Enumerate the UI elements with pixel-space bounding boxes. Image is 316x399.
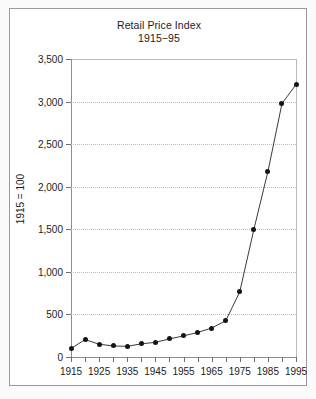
x-tick-mark	[198, 357, 199, 362]
x-tick-mark	[71, 357, 72, 362]
x-tick-mark	[85, 357, 86, 362]
y-tick-label: 3,000	[38, 96, 63, 107]
plot-area: 05001,0001,5002,0002,5003,0003,500 19151…	[71, 59, 296, 357]
data-point	[125, 344, 130, 349]
x-tick-mark	[184, 357, 185, 362]
x-tick-mark	[282, 357, 283, 362]
x-tick-mark	[169, 357, 170, 362]
x-tick-label: 1955	[172, 366, 194, 377]
x-tick-mark	[113, 357, 114, 362]
x-tick-mark	[99, 357, 100, 362]
x-tick-mark	[254, 357, 255, 362]
x-tick-label: 1925	[88, 366, 110, 377]
data-point	[69, 346, 74, 351]
x-tick-mark	[127, 357, 128, 362]
series-line	[71, 59, 296, 357]
x-tick-mark	[296, 357, 297, 362]
data-point	[153, 340, 158, 345]
x-tick-mark	[212, 357, 213, 362]
x-tick-label: 1935	[116, 366, 138, 377]
x-tick-label: 1985	[257, 366, 279, 377]
data-point	[195, 330, 200, 335]
y-tick-label: 2,500	[38, 139, 63, 150]
x-tick-label: 1945	[144, 366, 166, 377]
y-tick-label: 3,500	[38, 54, 63, 65]
x-tick-label: 1965	[201, 366, 223, 377]
plot-border-right	[296, 59, 297, 358]
y-tick-label: 1,000	[38, 266, 63, 277]
data-point	[294, 82, 299, 87]
data-point	[83, 337, 88, 342]
x-tick-label: 1975	[229, 366, 251, 377]
x-tick-label: 1995	[285, 366, 307, 377]
y-tick-label: 2,000	[38, 181, 63, 192]
x-tick-mark	[155, 357, 156, 362]
x-tick-label: 1915	[60, 366, 82, 377]
chart-title-block: Retail Price Index 1915−95	[10, 19, 308, 45]
y-tick-label: 500	[46, 309, 63, 320]
x-tick-mark	[141, 357, 142, 362]
x-tick-mark	[226, 357, 227, 362]
y-tick-label: 1,500	[38, 224, 63, 235]
data-point	[97, 342, 102, 347]
chart-subtitle: 1915−95	[10, 32, 308, 45]
data-point	[209, 326, 214, 331]
x-tick-mark	[268, 357, 269, 362]
chart-title: Retail Price Index	[10, 19, 308, 32]
y-tick-label: 0	[57, 352, 63, 363]
y-axis-title: 1915 = 100	[15, 174, 26, 224]
x-tick-mark	[240, 357, 241, 362]
chart-screenshot: Retail Price Index 1915−95 1915 = 100 05…	[0, 0, 316, 399]
chart-frame: Retail Price Index 1915−95 1915 = 100 05…	[9, 8, 307, 386]
